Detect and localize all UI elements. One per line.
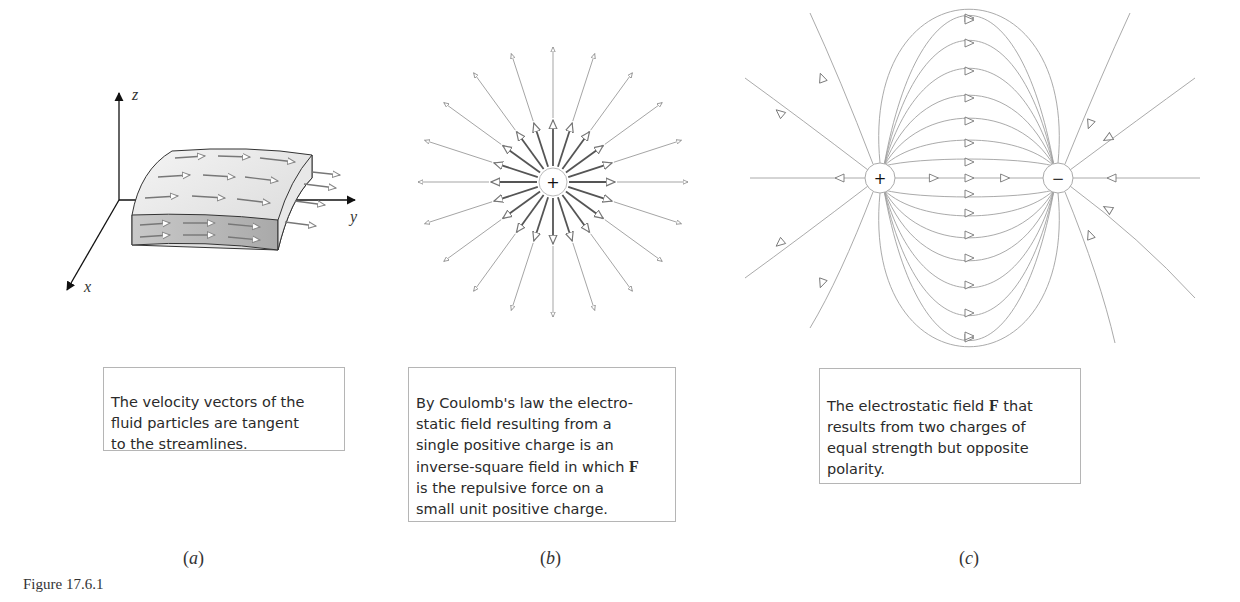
panel-b-diagram: + — [400, 30, 710, 340]
figure-number: Figure 17.6.1 — [23, 576, 103, 593]
y-axis-label: y — [348, 208, 358, 226]
sublabel-b: (b) — [540, 548, 561, 569]
vector-f-symbol: F — [629, 458, 639, 475]
dipole-field-lines — [745, 9, 1200, 347]
caption-b-text-1: By Coulomb's law the electro- static fie… — [416, 395, 633, 475]
caption-a-text: The velocity vectors of the fluid partic… — [111, 394, 304, 452]
panel-c-diagram: + − — [740, 0, 1210, 360]
x-axis-label: x — [83, 278, 91, 295]
caption-c-text-1: The electrostatic field — [827, 398, 989, 414]
caption-c: The electrostatic field F that results f… — [819, 368, 1081, 484]
panel-a-diagram: z y x — [40, 60, 380, 310]
negative-charge-symbol: − — [1052, 170, 1065, 188]
caption-b-text-2: is the repulsive force on a small unit p… — [416, 480, 608, 517]
positive-charge-symbol: + — [874, 170, 887, 188]
sublabel-c: (c) — [959, 548, 979, 569]
caption-b: By Coulomb's law the electro- static fie… — [408, 367, 676, 522]
sublabel-a: (a) — [183, 548, 204, 569]
caption-a: The velocity vectors of the fluid partic… — [103, 367, 345, 451]
charge-symbol: + — [546, 173, 559, 192]
vector-f-symbol: F — [989, 397, 999, 414]
z-axis-label: z — [131, 86, 139, 103]
